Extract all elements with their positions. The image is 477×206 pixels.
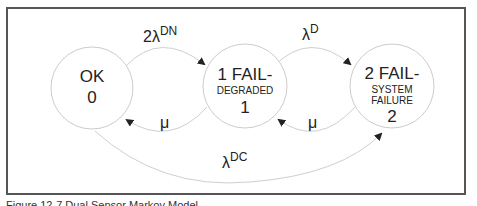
- state-degraded-sublabel: DEGRADED: [217, 85, 274, 96]
- state-degraded-label: 1 FAIL-: [218, 65, 273, 84]
- transition-0-to-1: [126, 47, 204, 66]
- state-failure-sublabel-b: FAILURE: [371, 95, 413, 106]
- state-failure-label: 2 FAIL-: [365, 64, 420, 83]
- state-failure-number: 2: [387, 107, 396, 126]
- state-degraded-number: 1: [240, 98, 249, 117]
- rate-label-2-1: μ: [308, 114, 317, 131]
- state-failure-sublabel-a: SYSTEM: [371, 84, 412, 95]
- transition-1-to-2: [274, 47, 350, 66]
- state-ok-number: 0: [87, 88, 96, 107]
- state-ok-label: OK: [80, 67, 105, 86]
- rate-label-1-0: μ: [160, 114, 169, 131]
- figure-caption: Figure 12-7 Dual Sensor Markov Model: [6, 199, 198, 206]
- markov-diagram: OK 0 1 FAIL- DEGRADED 1 2 FAIL- SYSTEM F…: [0, 0, 477, 206]
- state-ok: OK 0: [51, 47, 133, 129]
- state-degraded: 1 FAIL- DEGRADED 1: [203, 44, 287, 128]
- state-system-failure: 2 FAIL- SYSTEM FAILURE 2: [350, 44, 434, 128]
- rate-label-0-1: 2λDN: [143, 24, 177, 45]
- rate-label-1-2: λD: [302, 22, 319, 43]
- rate-label-0-2: λDC: [222, 150, 248, 171]
